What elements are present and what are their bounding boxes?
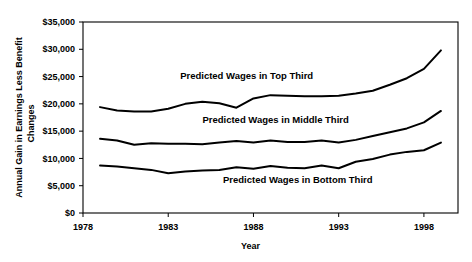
line-chart: $0$5,000$10,000$15,000$20,000$25,000$30,… (0, 0, 472, 262)
y-axis-tick-label: $20,000 (42, 99, 75, 109)
y-axis-tick-label: $25,000 (42, 72, 75, 82)
y-axis-title-line-1: Annual Gain in Earnings Less Benefit (14, 37, 24, 198)
x-axis-tick-label: 1998 (414, 222, 434, 232)
x-axis-tick-label: 1978 (73, 222, 93, 232)
x-axis-title: Year (241, 241, 261, 251)
y-axis-tick-label: $35,000 (42, 17, 75, 27)
series-annotation-3: Predicted Wages in Bottom Third (223, 174, 373, 185)
x-axis-tick-label: 1993 (329, 222, 349, 232)
y-axis-tick-label: $10,000 (42, 154, 75, 164)
x-axis-tick-label: 1988 (243, 222, 263, 232)
y-axis-tick-label: $15,000 (42, 126, 75, 136)
y-axis-title-line-2: Changes (26, 104, 36, 142)
series-annotation-2: Predicted Wages in Middle Third (202, 114, 349, 125)
series-annotation-1: Predicted Wages in Top Third (180, 70, 313, 81)
chart-container: $0$5,000$10,000$15,000$20,000$25,000$30,… (0, 0, 472, 262)
y-axis-tick-label: $0 (65, 208, 75, 218)
y-axis-tick-label: $5,000 (47, 181, 75, 191)
y-axis-tick-label: $30,000 (42, 44, 75, 54)
x-axis-tick-label: 1983 (158, 222, 178, 232)
